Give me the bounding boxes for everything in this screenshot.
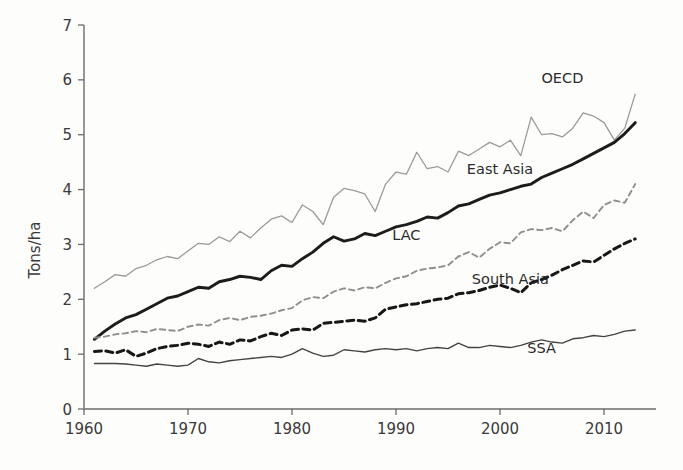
chart-container: 01234567 196019701980199020002010 OECDEa…: [0, 0, 683, 470]
x-tick-label: 1990: [377, 420, 415, 438]
y-tick-label: 5: [62, 126, 72, 144]
x-tick-label: 2010: [585, 420, 623, 438]
y-tick-label: 2: [62, 291, 72, 309]
series-line-oecd: [94, 94, 635, 288]
y-axis-title: Tons/ha: [26, 222, 44, 280]
x-tick-label: 2000: [481, 420, 519, 438]
y-tick-label: 6: [62, 71, 72, 89]
series-lines: [94, 94, 635, 366]
y-tick-label: 3: [62, 236, 72, 254]
series-label-oecd: OECD: [541, 70, 583, 86]
y-axis: 01234567: [62, 17, 84, 419]
y-tick-label: 1: [62, 346, 72, 364]
y-tick-label: 4: [62, 181, 72, 199]
series-label-east-asia: East Asia: [467, 161, 533, 177]
series-annotations: OECDEast AsiaLACSouth AsiaSSA: [392, 70, 583, 356]
x-tick-label: 1970: [169, 420, 207, 438]
series-label-south-asia: South Asia: [472, 271, 549, 287]
series-line-lac: [94, 184, 635, 338]
y-tick-label: 7: [62, 17, 72, 35]
y-tick-label: 0: [62, 401, 72, 419]
series-label-lac: LAC: [392, 227, 420, 243]
series-label-ssa: SSA: [527, 340, 556, 356]
line-chart: 01234567 196019701980199020002010 OECDEa…: [0, 0, 683, 470]
x-tick-label: 1980: [273, 420, 311, 438]
series-line-east-asia: [94, 123, 635, 340]
x-tick-label: 1960: [65, 420, 103, 438]
x-axis: 196019701980199020002010: [65, 409, 656, 438]
